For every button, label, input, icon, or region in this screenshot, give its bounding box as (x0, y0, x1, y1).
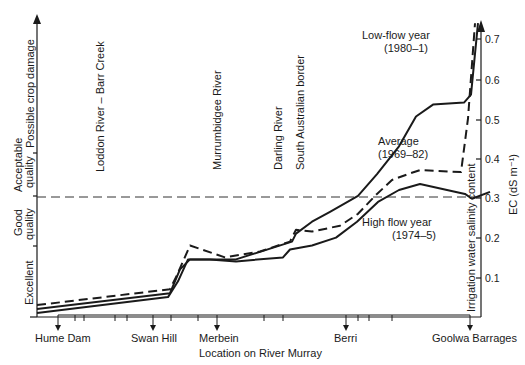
annotation-high-flow-years: (1974–5) (392, 229, 436, 241)
band-good-label-2: quality (23, 208, 35, 240)
annotation-average-years: (1969–82) (378, 148, 428, 160)
tributary-murrumbidgee-label: Murrumbidgee River (211, 70, 223, 170)
left-axis-arrow-icon (33, 14, 41, 24)
location-goolwa-barrages: Goolwa Barrages (432, 332, 517, 344)
band-possible-crop-damage-label: Possible crop damage (24, 39, 36, 148)
y-axis-units: EC (dS m⁻¹) (507, 154, 519, 215)
annotation-low-flow-years: (1980–1) (384, 42, 428, 54)
location-hume-dam: Hume Dam (35, 332, 91, 344)
arrow-down-icon (343, 325, 349, 331)
y-axis-title: Irrigation water salinity content (465, 163, 477, 312)
ytick-label: 0.2 (485, 232, 500, 244)
ytick-label: 0.4 (485, 153, 500, 165)
salinity-chart: 0.1 0.2 0.3 0.4 0.5 0.6 0.7 Hume (0, 0, 525, 365)
ytick-label: 0.1 (485, 272, 500, 284)
tributary-sa-border-label: South Australian border (294, 55, 306, 170)
tributary-labels: Loddon River – Barr Creek Murrumbidgee R… (94, 41, 306, 172)
arrow-down-icon (150, 325, 156, 331)
quality-band-labels: Excellent Good quality Acceptable qualit… (12, 39, 36, 305)
series-annotations: Low-flow year (1980–1) Average (1969–82)… (362, 29, 436, 241)
location-ticks (75, 315, 392, 321)
ytick-label: 0.7 (485, 33, 500, 45)
x-axis-title: Location on River Murray (199, 347, 322, 359)
tributary-loddon-label: Loddon River – Barr Creek (94, 41, 106, 172)
annotation-high-flow: High flow year (362, 216, 432, 228)
arrow-down-icon (467, 325, 473, 331)
annotation-low-flow: Low-flow year (362, 29, 430, 41)
right-axis-tick-labels: 0.1 0.2 0.3 0.4 0.5 0.6 0.7 (485, 33, 500, 284)
ytick-label: 0.6 (485, 74, 500, 86)
location-swan-hill: Swan Hill (131, 332, 177, 344)
location-berri: Berri (334, 332, 357, 344)
band-excellent-label: Excellent (23, 260, 35, 305)
ytick-label: 0.5 (485, 114, 500, 126)
location-labels: Hume Dam Swan Hill Merbein Berri Goolwa … (35, 332, 517, 359)
band-acceptable-label-2: quality (23, 156, 35, 188)
tributary-darling-label: Darling River (272, 106, 284, 170)
annotation-average: Average (378, 135, 419, 147)
series-high-flow-line (37, 184, 490, 313)
arrow-down-icon (214, 325, 220, 331)
location-merbein: Merbein (199, 332, 239, 344)
arrow-down-icon (55, 325, 61, 331)
